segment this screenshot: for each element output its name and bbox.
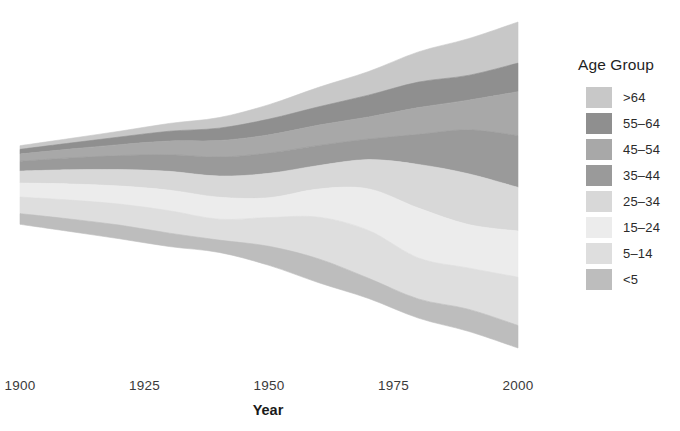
legend-swatch-icon: [586, 165, 612, 186]
legend-item: 35–44: [576, 162, 680, 188]
legend-item: 5–14: [576, 240, 680, 266]
x-tick-label: 1900: [5, 378, 36, 393]
legend-item: 15–24: [576, 214, 680, 240]
legend-swatch-icon: [586, 191, 612, 212]
legend-item-label: 15–24: [623, 220, 660, 235]
legend-items: >6455–6445–5435–4425–3415–245–14<5: [576, 84, 680, 292]
legend-swatch-icon: [586, 243, 612, 264]
legend-item-label: 25–34: [623, 194, 660, 209]
chart-root: 19001925195019752000 Year Age Group >645…: [0, 0, 680, 431]
legend-swatch-icon: [586, 139, 612, 160]
legend: Age Group >6455–6445–5435–4425–3415–245–…: [576, 56, 680, 292]
legend-title: Age Group: [578, 56, 680, 74]
x-axis-tick-labels: 19001925195019752000: [0, 378, 560, 400]
legend-item-label: 35–44: [623, 168, 660, 183]
legend-swatch-icon: [586, 217, 612, 238]
legend-swatch-icon: [586, 113, 612, 134]
x-axis-title: Year: [253, 402, 284, 418]
legend-item-label: 45–54: [623, 142, 660, 157]
legend-swatch-icon: [586, 269, 612, 290]
x-tick-label: 1925: [129, 378, 160, 393]
legend-item: >64: [576, 84, 680, 110]
x-tick-label: 1950: [254, 378, 285, 393]
legend-item-label: <5: [623, 272, 638, 287]
legend-item: 25–34: [576, 188, 680, 214]
stream-bands: [20, 22, 518, 348]
legend-item-label: 5–14: [623, 246, 653, 261]
legend-item-label: >64: [623, 90, 646, 105]
legend-item: 45–54: [576, 136, 680, 162]
legend-item: 55–64: [576, 110, 680, 136]
x-tick-label: 2000: [503, 378, 534, 393]
legend-item-label: 55–64: [623, 116, 660, 131]
x-tick-label: 1975: [378, 378, 409, 393]
legend-swatch-icon: [586, 87, 612, 108]
streamgraph-plot: [0, 0, 560, 380]
legend-item: <5: [576, 266, 680, 292]
